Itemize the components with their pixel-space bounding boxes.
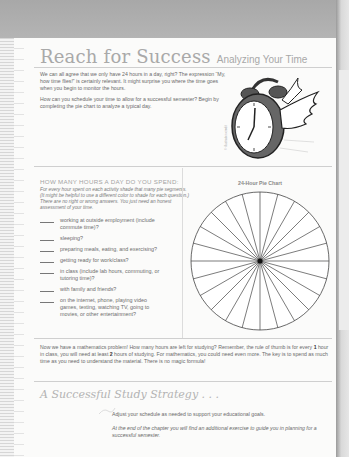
page-header: Reach for Success Analyzing Your Time <box>40 46 307 67</box>
questionnaire-instructions: For every hour spent on each activity sh… <box>40 187 190 211</box>
adjacent-page-edge <box>336 0 349 457</box>
answer-blank[interactable] <box>40 268 54 274</box>
question-item: sleeping? <box>40 235 190 242</box>
answer-blank[interactable] <box>40 257 54 263</box>
scan-top-shadow <box>0 0 340 38</box>
question-item: in class (include lab hours, commuting, … <box>40 268 190 282</box>
intro-paragraph-1: We can all agree that we only have 24 ho… <box>40 71 230 92</box>
strategy-line-1: Adjust your schedule as needed to suppor… <box>112 411 330 418</box>
intro-paragraph-2: How can you schedule your time to allow … <box>40 96 230 110</box>
question-item: working at outside employment (include c… <box>40 217 190 231</box>
binding-edge <box>0 38 15 457</box>
answer-blank[interactable] <box>40 246 54 252</box>
strategy-title: A Successful Study Strategy . . . <box>40 388 219 401</box>
adjacent-page-tab <box>338 70 349 330</box>
pie-chart-panel: 24-Hour Pie Chart <box>182 168 337 338</box>
strategy-body: Adjust your schedule as needed to suppor… <box>112 411 330 446</box>
illustration-credit: © illustration credit <box>224 125 228 150</box>
textbook-page: Reach for Success Analyzing Your Time We… <box>14 38 336 457</box>
section-divider-1 <box>34 166 332 167</box>
section-divider-2 <box>34 338 332 339</box>
question-item: on the internet, phone, playing video ga… <box>40 297 190 318</box>
page-title: Reach for Success <box>40 46 211 67</box>
question-item: with family and friends? <box>40 286 190 293</box>
question-item: getting ready for work/class? <box>40 257 190 264</box>
winged-alarm-clock-icon <box>222 70 322 165</box>
answer-blank[interactable] <box>40 217 54 223</box>
answer-blank[interactable] <box>40 235 54 241</box>
answer-blank[interactable] <box>40 297 54 303</box>
section-divider-3 <box>34 381 332 382</box>
answer-blank[interactable] <box>40 286 54 292</box>
page-subtitle: Analyzing Your Time <box>217 54 308 65</box>
math-paragraph: Now we have a mathematics problem! How m… <box>40 344 330 365</box>
hours-questionnaire: HOW MANY HOURS A DAY DO YOU SPEND: For e… <box>40 178 190 322</box>
24-hour-pie-chart[interactable] <box>189 190 331 332</box>
strategy-line-2: At the end of the chapter you will find … <box>112 425 330 439</box>
intro-text: We can all agree that we only have 24 ho… <box>40 71 230 114</box>
question-item: preparing meals, eating, and exercising? <box>40 246 190 253</box>
pie-chart-title: 24-Hour Pie Chart <box>183 180 337 186</box>
header-divider <box>34 67 332 68</box>
questionnaire-heading: HOW MANY HOURS A DAY DO YOU SPEND: <box>40 178 190 185</box>
margin-ticks <box>14 38 24 457</box>
